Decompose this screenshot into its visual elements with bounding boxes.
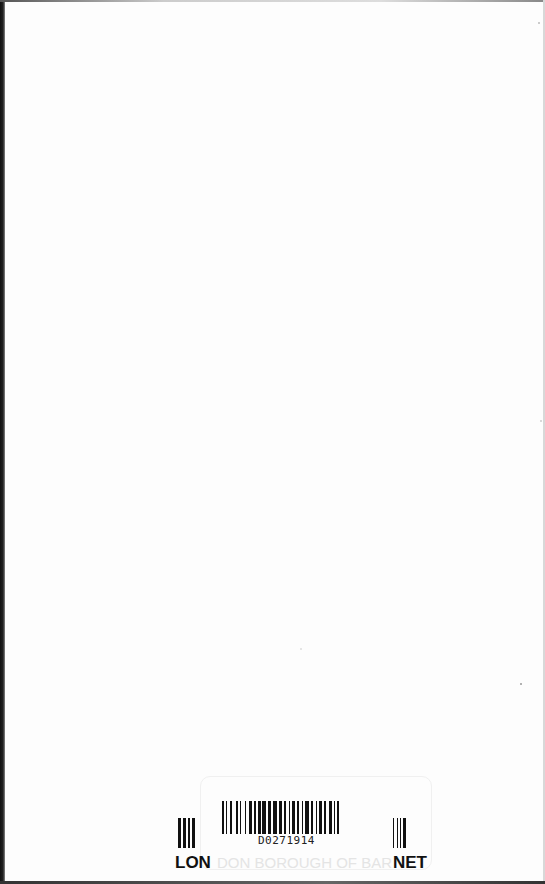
paper-speck <box>540 420 542 422</box>
label-suffix: NET <box>393 853 427 873</box>
book-page: D0271914 LON DON BOROUGH OF BAR NET <box>0 0 545 884</box>
page-top-edge <box>0 0 545 2</box>
barcode-icon <box>178 818 195 848</box>
barcode-icon <box>393 818 406 848</box>
paper-speck <box>520 683 522 685</box>
label-middle-faint: DON BOROUGH OF BAR <box>217 854 392 871</box>
page-left-edge <box>0 0 5 884</box>
barcode-number: D0271914 <box>258 834 315 847</box>
barcode-icon <box>222 801 339 834</box>
paper-speck <box>300 648 302 650</box>
label-prefix: LON <box>175 853 211 873</box>
paper-speck <box>538 22 540 24</box>
library-name-label: LON DON BOROUGH OF BAR NET <box>175 853 435 873</box>
